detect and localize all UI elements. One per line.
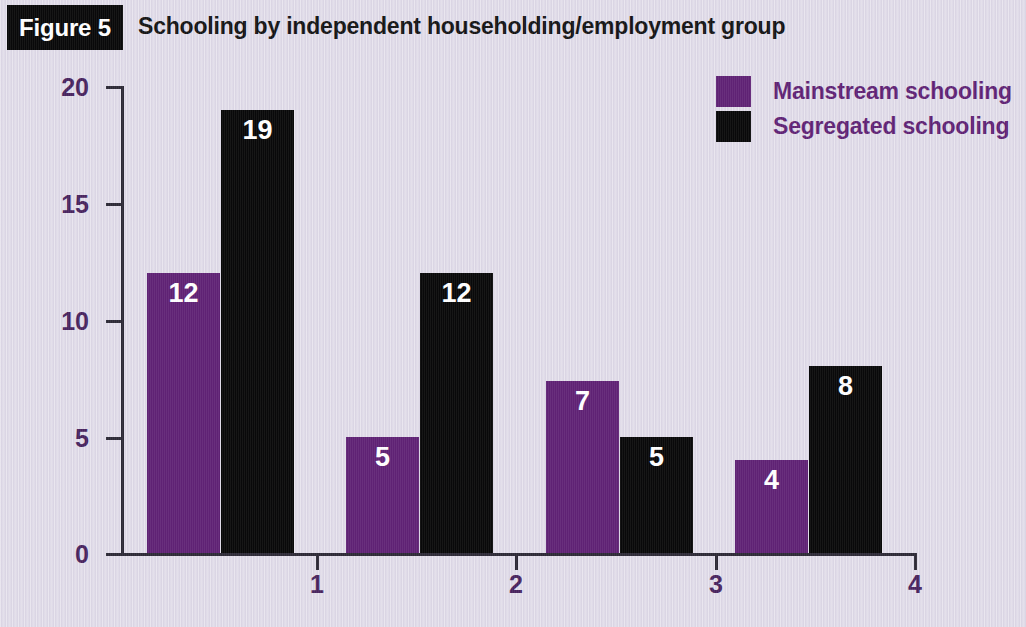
bar-group1-segregated: 19 [221,110,294,553]
bar-group3-segregated: 5 [620,437,693,553]
y-tick-mark-15 [106,203,123,206]
figure-container: Figure 5 Schooling by independent househ… [0,0,1026,627]
x-tick-mark-3 [715,553,718,570]
bar-value-group4-segregated: 8 [809,373,882,400]
bar-group1-mainstream: 12 [147,273,220,553]
bar-value-group1-mainstream: 12 [147,280,220,307]
bar-group3-mainstream: 7 [546,381,619,553]
x-tick-label-3: 3 [696,572,736,597]
y-tick-label-10: 10 [29,309,89,334]
x-tick-label-2: 2 [496,572,536,597]
bar-value-group3-segregated: 5 [620,444,693,471]
bar-group2-segregated: 12 [420,273,493,553]
x-tick-mark-4 [914,553,917,570]
bar-value-group4-mainstream: 4 [735,467,808,494]
bar-value-group2-mainstream: 5 [346,444,419,471]
x-tick-mark-2 [515,553,518,570]
x-tick-label-1: 1 [297,572,337,597]
y-tick-label-20: 20 [29,75,89,100]
x-tick-label-4: 4 [895,572,935,597]
x-axis-line [106,553,917,556]
y-tick-label-0: 0 [29,542,89,567]
x-tick-mark-1 [316,553,319,570]
plot-area: 20 15 10 5 0 1 2 3 4 12 19 5 12 7 [0,0,1026,627]
bar-value-group2-segregated: 12 [420,280,493,307]
bar-group4-segregated: 8 [809,366,882,553]
y-tick-label-5: 5 [29,426,89,451]
y-tick-mark-5 [106,437,123,440]
y-tick-mark-10 [106,320,123,323]
bar-group4-mainstream: 4 [735,460,808,553]
y-tick-label-15: 15 [29,192,89,217]
y-tick-mark-0 [106,553,123,556]
bar-value-group1-segregated: 19 [221,117,294,144]
y-tick-mark-20 [106,86,123,89]
bar-group2-mainstream: 5 [346,437,419,553]
bar-value-group3-mainstream: 7 [546,388,619,415]
